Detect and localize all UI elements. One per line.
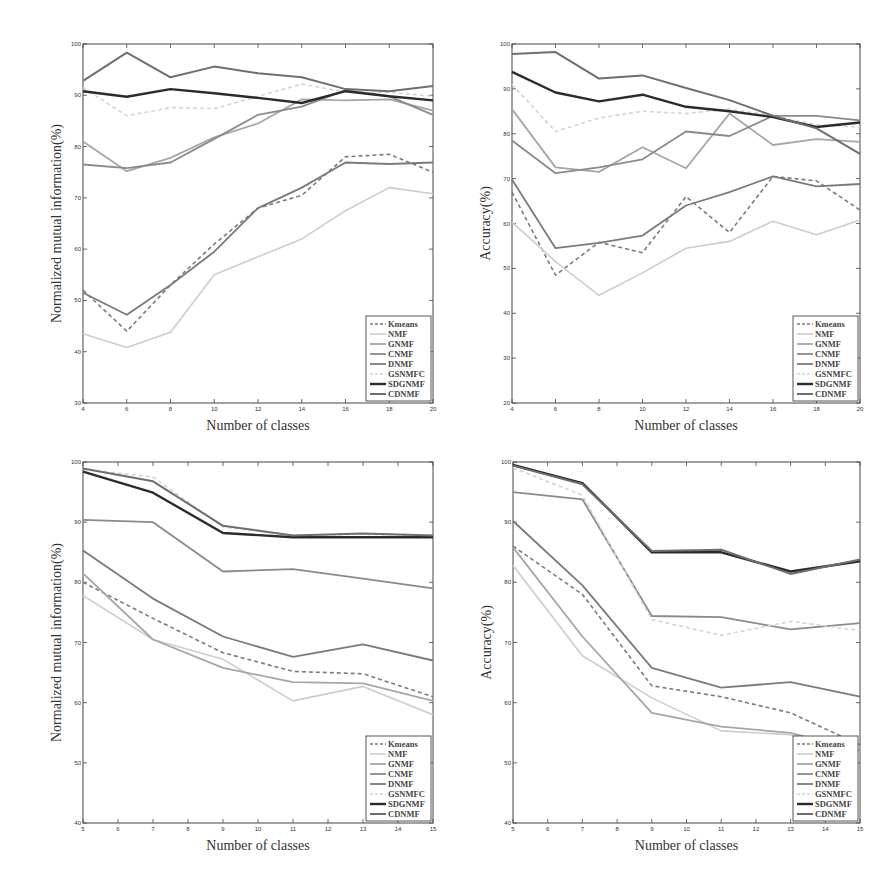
y-tick-label: 70 bbox=[503, 176, 510, 182]
series-line-cnmf bbox=[513, 492, 860, 629]
legend-label: GNMF bbox=[815, 339, 841, 349]
y-tick-label: 50 bbox=[503, 265, 510, 271]
y-tick-label: 90 bbox=[503, 86, 510, 92]
legend-label: CNMF bbox=[388, 349, 414, 359]
y-tick-label: 40 bbox=[74, 349, 81, 355]
x-tick-label: 14 bbox=[395, 826, 402, 832]
series-line-sdgnmf bbox=[512, 72, 860, 127]
x-tick-label: 8 bbox=[169, 406, 173, 412]
x-tick-label: 13 bbox=[360, 826, 367, 832]
x-tick-label: 11 bbox=[718, 826, 725, 832]
series-line-kmeans bbox=[512, 176, 860, 275]
x-tick-label: 8 bbox=[615, 826, 619, 832]
chart-top-right: 4681012141618202030405060708090100Number… bbox=[447, 0, 894, 447]
x-tick-label: 10 bbox=[255, 826, 262, 832]
series-line-sdgnmf bbox=[83, 472, 433, 538]
y-tick-label: 100 bbox=[71, 41, 82, 47]
x-tick-label: 14 bbox=[298, 406, 305, 412]
series-line-nmf bbox=[83, 596, 433, 715]
x-tick-label: 7 bbox=[151, 826, 155, 832]
legend-label: CNMF bbox=[815, 349, 841, 359]
series-line-dnmf bbox=[513, 521, 860, 697]
legend-label: GSNMFC bbox=[815, 789, 852, 799]
y-tick-label: 90 bbox=[74, 92, 81, 98]
x-tick-label: 12 bbox=[683, 406, 690, 412]
legend-label: NMF bbox=[815, 329, 834, 339]
x-axis-label: Number of classes bbox=[206, 418, 309, 433]
x-tick-label: 20 bbox=[857, 406, 864, 412]
x-tick-label: 9 bbox=[650, 826, 654, 832]
y-axis-label: Normalized mutual information(%) bbox=[49, 543, 65, 742]
legend-label: DNMF bbox=[815, 779, 841, 789]
y-tick-label: 90 bbox=[504, 519, 511, 525]
legend-label: NMF bbox=[388, 749, 407, 759]
series-line-nmf bbox=[512, 220, 860, 295]
x-tick-label: 4 bbox=[510, 406, 514, 412]
x-tick-label: 6 bbox=[554, 406, 558, 412]
y-tick-label: 30 bbox=[74, 400, 81, 406]
y-tick-label: 40 bbox=[503, 310, 510, 316]
x-tick-label: 18 bbox=[386, 406, 393, 412]
legend-label: DNMF bbox=[388, 779, 414, 789]
series-line-sdgnmf bbox=[513, 465, 860, 572]
y-tick-label: 20 bbox=[503, 400, 510, 406]
y-tick-label: 70 bbox=[74, 195, 81, 201]
series-line-nmf bbox=[513, 566, 860, 751]
series-line-gnmf bbox=[83, 99, 433, 171]
legend-label: CDNMF bbox=[388, 389, 420, 399]
y-tick-label: 50 bbox=[74, 297, 81, 303]
legend-label: DNMF bbox=[815, 359, 841, 369]
series-line-cdnmf bbox=[513, 466, 860, 574]
series-line-cdnmf bbox=[83, 469, 433, 536]
y-tick-label: 30 bbox=[503, 355, 510, 361]
x-tick-label: 20 bbox=[430, 406, 437, 412]
legend-label: Kmeans bbox=[388, 739, 418, 749]
y-tick-label: 60 bbox=[74, 246, 81, 252]
y-axis-label: Accuracy(%) bbox=[478, 186, 494, 261]
legend-label: GNMF bbox=[388, 759, 414, 769]
legend-label: SDGNMF bbox=[388, 799, 425, 809]
y-tick-label: 80 bbox=[504, 579, 511, 585]
x-tick-label: 16 bbox=[342, 406, 349, 412]
legend-label: SDGNMF bbox=[815, 799, 852, 809]
y-tick-label: 50 bbox=[74, 760, 81, 766]
series-line-kmeans bbox=[83, 154, 433, 331]
x-tick-label: 5 bbox=[511, 826, 515, 832]
legend-label: Kmeans bbox=[388, 319, 418, 329]
legend-label: SDGNMF bbox=[815, 379, 852, 389]
series-line-cdnmf bbox=[83, 53, 433, 91]
chart-svg: 4681012141618202030405060708090100Number… bbox=[447, 0, 894, 447]
x-tick-label: 7 bbox=[581, 826, 585, 832]
x-tick-label: 16 bbox=[770, 406, 777, 412]
legend-label: CDNMF bbox=[815, 389, 847, 399]
legend-label: GNMF bbox=[388, 339, 414, 349]
legend-label: NMF bbox=[815, 749, 834, 759]
chart-svg: 56789101112131415405060708090100Number o… bbox=[447, 447, 894, 894]
series-line-dnmf bbox=[83, 163, 433, 315]
chart-bottom-left: 56789101112131415405060708090100Number o… bbox=[0, 447, 447, 894]
y-tick-label: 90 bbox=[74, 519, 81, 525]
x-tick-label: 4 bbox=[81, 406, 85, 412]
y-tick-label: 80 bbox=[74, 144, 81, 150]
legend-label: Kmeans bbox=[815, 319, 845, 329]
y-axis-label: Accuracy(%) bbox=[479, 605, 495, 680]
chart-bottom-right: 56789101112131415405060708090100Number o… bbox=[447, 447, 894, 894]
legend-label: GSNMFC bbox=[815, 369, 852, 379]
x-tick-label: 12 bbox=[255, 406, 262, 412]
chart-top-left: 46810121416182030405060708090100Number o… bbox=[0, 0, 447, 447]
series-line-gnmf bbox=[512, 109, 860, 172]
series-line-dnmf bbox=[512, 176, 860, 248]
legend-label: GSNMFC bbox=[388, 369, 425, 379]
legend-label: CNMF bbox=[815, 769, 841, 779]
legend-label: CDNMF bbox=[815, 809, 847, 819]
legend-label: CDNMF bbox=[388, 809, 420, 819]
x-tick-label: 12 bbox=[325, 826, 332, 832]
legend: KmeansNMFGNMFCNMFDNMFGSNMFCSDGNMFCDNMF bbox=[366, 316, 431, 401]
y-tick-label: 60 bbox=[503, 221, 510, 227]
y-tick-label: 100 bbox=[71, 459, 82, 465]
series-line-dnmf bbox=[83, 550, 433, 660]
series-line-cnmf bbox=[83, 90, 433, 168]
chart-svg: 46810121416182030405060708090100Number o… bbox=[0, 0, 447, 447]
y-tick-label: 40 bbox=[74, 820, 81, 826]
x-tick-label: 5 bbox=[81, 826, 85, 832]
